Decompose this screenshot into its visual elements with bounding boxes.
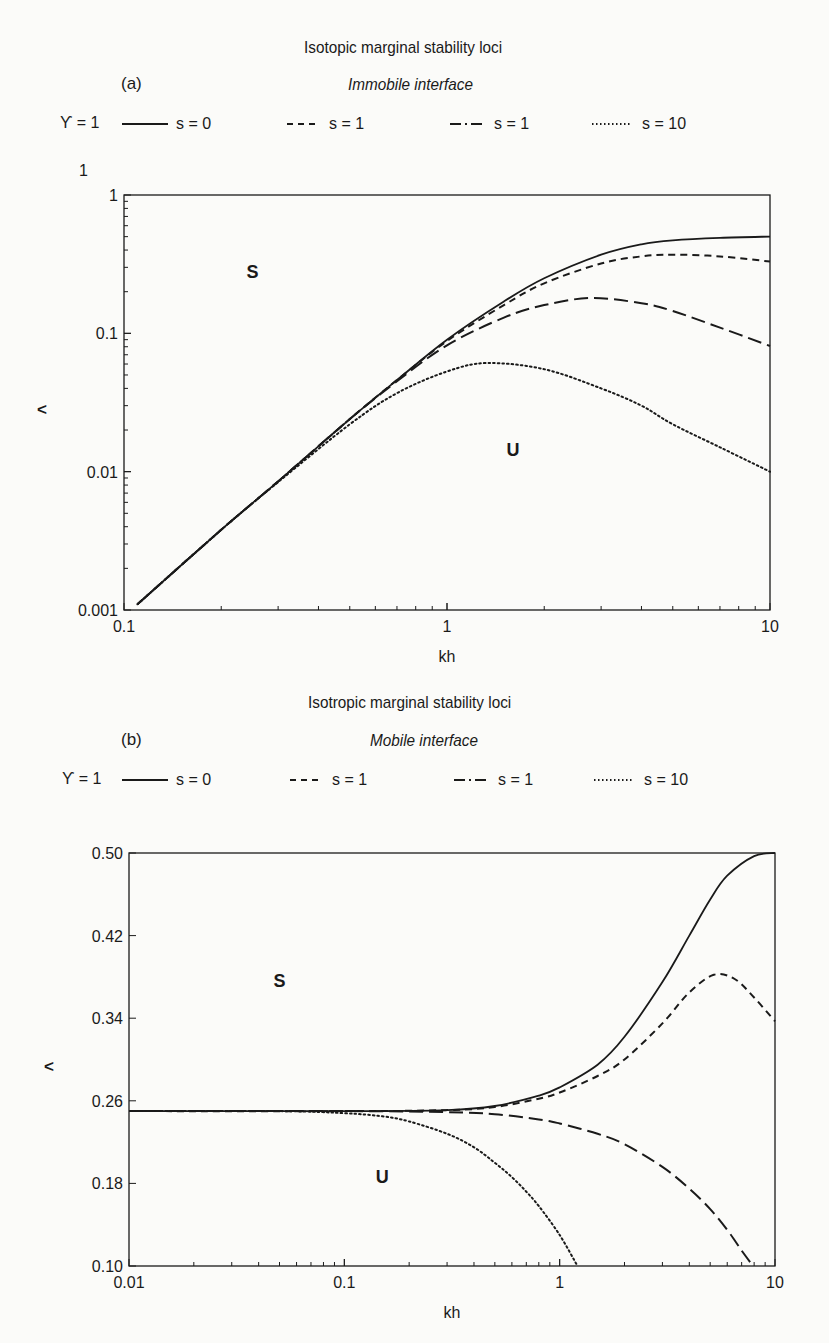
y-tick-label: 0.50 (92, 845, 123, 862)
series-short-dash (129, 974, 775, 1111)
region-label-s: S (274, 971, 286, 991)
x-tick-label: 0.01 (113, 1274, 144, 1291)
series-dotted (129, 1111, 578, 1266)
y-tick-label: 0.18 (92, 1175, 123, 1192)
series-solid (129, 853, 775, 1111)
x-tick-label: 0.1 (333, 1274, 355, 1291)
y-tick-label: 0.34 (92, 1010, 123, 1027)
x-tick-label: 1 (555, 1274, 564, 1291)
plot-frame (129, 853, 775, 1266)
y-axis-label: < (44, 1057, 54, 1076)
chart-b-plot: 0.010.11100.100.180.260.340.420.50kh<SU (0, 0, 829, 1343)
y-tick-label: 0.42 (92, 928, 123, 945)
x-tick-label: 10 (766, 1274, 784, 1291)
series-group (129, 853, 775, 1266)
region-label-u: U (376, 1167, 389, 1187)
y-tick-label: 0.10 (92, 1258, 123, 1275)
y-tick-label: 0.26 (92, 1093, 123, 1110)
x-axis-label: kh (444, 1304, 461, 1321)
series-long-dash (129, 1111, 753, 1266)
